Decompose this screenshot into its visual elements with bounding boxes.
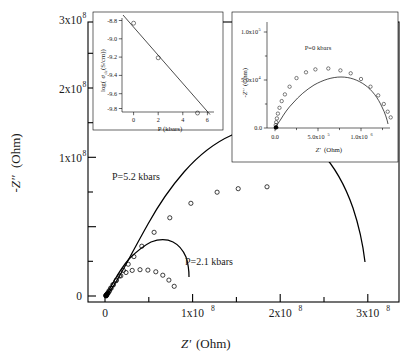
- svg-text:-9.0: -9.0: [107, 35, 117, 42]
- svg-text:8: 8: [83, 11, 87, 20]
- svg-text:5.0x10: 5.0x10: [307, 133, 324, 140]
- svg-text:5: 5: [328, 132, 330, 137]
- svg-text:8: 8: [299, 304, 303, 313]
- right-inset-x-axis-title: Z' (Ohm): [315, 146, 342, 154]
- svg-text:2: 2: [157, 116, 160, 123]
- svg-text:8: 8: [83, 149, 87, 158]
- svg-text:-9.6: -9.6: [107, 90, 117, 97]
- main-xlabel-symbol: Z': [181, 336, 191, 351]
- main-xtick-1e8: 1x10 8: [181, 304, 215, 319]
- main-xtick-2e8: 2x10 8: [269, 304, 303, 319]
- svg-text:-9.4: -9.4: [107, 71, 117, 78]
- label-p52-kbars: P=5.2 kbars: [112, 171, 160, 182]
- main-y-tick-labels: 0 1x10 8 2x10 8 3x10 8: [59, 11, 87, 303]
- main-x-tick-labels: 0 1x10 8 2x10 8 3x10 8: [102, 304, 390, 319]
- main-ytick-0: 0: [76, 290, 82, 302]
- svg-text:0.0: 0.0: [271, 133, 279, 140]
- label-p0-kbars: P=0 kbars: [305, 44, 332, 51]
- svg-text:3x10: 3x10: [59, 14, 82, 26]
- svg-text:-9.8: -9.8: [107, 105, 117, 112]
- svg-text:-8.8: -8.8: [107, 17, 117, 24]
- svg-text:log(: log(: [99, 80, 107, 92]
- svg-text:4: 4: [181, 116, 184, 123]
- right-inset-y-axis-title: -Z'' (Ohm): [241, 68, 249, 98]
- main-ytick-2e8: 2x10 8: [59, 80, 87, 95]
- svg-text:1x10: 1x10: [59, 152, 82, 164]
- main-ylabel-symbol: -Z'': [8, 175, 23, 192]
- label-p21-kbars: P=2.1 kbars: [185, 256, 233, 267]
- figure-container: 0 1x10 8 2x10 8 3x10 8 0 1x10 8 2x10: [0, 0, 409, 363]
- svg-text:2x10: 2x10: [269, 307, 292, 319]
- main-ylabel-unit: (Ohm): [8, 133, 23, 168]
- svg-text:8: 8: [211, 304, 215, 313]
- right-inset-nyquist-p0: 0.0 5.0x10 4 1.0x10 5 0.0 5.0x10 5 1.0x1…: [232, 12, 398, 162]
- main-xtick-3e8: 3x10 8: [356, 304, 390, 319]
- right-inset-ytick-1e5: 1.0x10 5: [241, 27, 261, 36]
- svg-text:3x10: 3x10: [356, 307, 379, 319]
- main-ytick-1e8: 1x10 8: [59, 149, 87, 164]
- main-y-axis-title: -Z'' (Ohm): [8, 133, 23, 192]
- svg-text:2x10: 2x10: [59, 83, 82, 95]
- svg-text:-Z'': -Z'': [241, 88, 248, 97]
- svg-text:8: 8: [83, 80, 87, 89]
- nyquist-impedance-figure: 0 1x10 8 2x10 8 3x10 8 0 1x10 8 2x10: [0, 0, 409, 363]
- svg-text:-9.2: -9.2: [107, 53, 117, 60]
- svg-text:1x10: 1x10: [181, 307, 204, 319]
- svg-text:6: 6: [206, 116, 209, 123]
- right-inset-origin-cluster: [274, 126, 278, 130]
- main-ytick-3e8: 3x10 8: [59, 11, 87, 26]
- main-xlabel-unit: (Ohm): [196, 336, 231, 351]
- svg-text:Z': Z': [315, 146, 321, 153]
- svg-text:5: 5: [259, 27, 261, 32]
- svg-text:8: 8: [386, 304, 390, 313]
- svg-text:(S/cm)): (S/cm)): [99, 49, 107, 70]
- svg-text:0: 0: [132, 116, 135, 123]
- svg-text:1.0x10: 1.0x10: [350, 133, 367, 140]
- main-xtick-0: 0: [102, 307, 108, 319]
- svg-text:1.0x10: 1.0x10: [241, 28, 258, 35]
- left-inset-xlabel: P (kbars): [158, 125, 182, 133]
- svg-text:(Ohm): (Ohm): [241, 68, 249, 86]
- left-inset-conductivity-vs-pressure: -8.8 -9.0 -9.2 -9.4 -9.6 -9.8 0 2 4 6 P …: [93, 12, 223, 133]
- svg-text:(Ohm): (Ohm): [324, 146, 342, 154]
- svg-text:0.0: 0.0: [254, 124, 262, 131]
- main-x-axis-title: Z' (Ohm): [181, 336, 231, 351]
